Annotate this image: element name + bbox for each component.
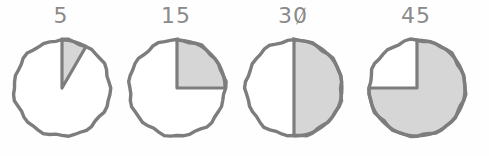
pie-chart-item: 5 <box>0 0 122 156</box>
pie-chart-label: 30 <box>232 2 354 30</box>
pie-chart-graphic <box>123 30 231 150</box>
pie-chart-graphic <box>240 30 348 150</box>
pie-chart-figure: 5 15 30 45 <box>0 0 489 156</box>
pie-chart-label: 5 <box>0 2 122 30</box>
pie-chart-graphic <box>8 30 116 150</box>
pie-slice-elapsed <box>294 40 342 136</box>
pie-chart-item: 45 <box>355 0 477 156</box>
pie-chart-item: 15 <box>115 0 237 156</box>
pie-chart-label: 15 <box>115 2 237 30</box>
pie-chart-label: 45 <box>355 2 477 30</box>
pie-chart-item: 30 <box>232 0 354 156</box>
pie-chart-graphic <box>363 30 471 150</box>
